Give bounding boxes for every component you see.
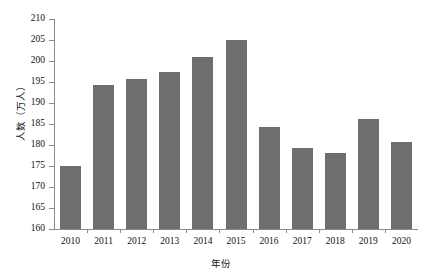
x-tick [186, 229, 187, 233]
y-tick-label: 185 [31, 118, 45, 129]
x-tick [385, 229, 386, 233]
bar [126, 79, 147, 229]
x-tick [219, 229, 220, 233]
y-tick-label: 200 [31, 55, 45, 66]
x-tick-label: 2016 [253, 235, 286, 247]
bar [391, 142, 412, 229]
x-tick [87, 229, 88, 233]
bar-chart: 人数（万人） 160165170175180185190195200205210… [0, 0, 442, 277]
y-tick-label: 170 [31, 181, 45, 192]
y-tick-label: 190 [31, 97, 45, 108]
x-tick-label: 2013 [153, 235, 186, 247]
y-tick: 160 [49, 229, 54, 230]
bar-group [54, 19, 418, 229]
x-tick-label: 2012 [120, 235, 153, 247]
y-tick-label: 195 [31, 76, 45, 87]
y-tick-label: 205 [31, 34, 45, 45]
y-axis-title: 人数（万人） [13, 61, 27, 161]
x-tick [253, 229, 254, 233]
bar [226, 40, 247, 229]
x-tick [120, 229, 121, 233]
x-tick-label: 2014 [186, 235, 219, 247]
x-tick [153, 229, 154, 233]
x-tick-label: 2017 [286, 235, 319, 247]
y-tick-label: 165 [31, 202, 45, 213]
bar [60, 166, 81, 229]
y-tick-label: 210 [31, 13, 45, 24]
x-tick-label: 2011 [87, 235, 120, 247]
x-axis-line [54, 229, 418, 230]
x-tick-label: 2010 [54, 235, 87, 247]
x-tick-label: 2019 [352, 235, 385, 247]
y-tick-label: 175 [31, 160, 45, 171]
bar [259, 127, 280, 229]
bar [325, 153, 346, 229]
bar [292, 148, 313, 229]
x-tick [352, 229, 353, 233]
bar [192, 57, 213, 229]
plot-area: 160165170175180185190195200205210 201020… [54, 19, 418, 229]
bar [93, 85, 114, 229]
x-tick-label: 2015 [219, 235, 252, 247]
x-axis-title: 年份 [0, 256, 442, 270]
y-tick-label: 180 [31, 139, 45, 150]
y-tick-label: 160 [31, 223, 45, 234]
x-tick-label: 2018 [319, 235, 352, 247]
x-tick [319, 229, 320, 233]
x-tick [286, 229, 287, 233]
bar [358, 119, 379, 229]
x-tick-label: 2020 [385, 235, 418, 247]
bar [159, 72, 180, 230]
